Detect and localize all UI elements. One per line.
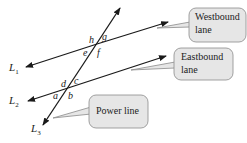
parallel-lines-diagram: L1 L2 L3 h g e f d c a b Westbound lane … bbox=[0, 0, 247, 143]
angle-d: d bbox=[61, 78, 67, 89]
label-l3: L3 bbox=[30, 122, 41, 137]
label-l1: L1 bbox=[8, 61, 19, 76]
svg-text:lane: lane bbox=[195, 24, 212, 35]
label-l2: L2 bbox=[8, 94, 19, 109]
angle-b: b bbox=[68, 90, 73, 101]
angle-h: h bbox=[89, 34, 94, 45]
angle-f: f bbox=[97, 47, 101, 58]
svg-text:Eastbound: Eastbound bbox=[181, 51, 223, 62]
angle-c: c bbox=[74, 75, 79, 86]
callout-eastbound: Eastbound lane bbox=[131, 48, 233, 80]
svg-text:Westbound: Westbound bbox=[195, 11, 240, 22]
line-l2 bbox=[68, 56, 166, 88]
svg-text:Power line: Power line bbox=[96, 105, 140, 116]
line-l3 bbox=[82, 8, 120, 66]
svg-text:lane: lane bbox=[181, 64, 198, 75]
angle-e: e bbox=[83, 47, 88, 58]
callout-westbound: Westbound lane bbox=[157, 8, 246, 42]
angle-g: g bbox=[102, 31, 107, 42]
line-l2-left bbox=[28, 88, 68, 101]
line-l1 bbox=[97, 22, 168, 44]
angle-a: a bbox=[53, 90, 58, 101]
